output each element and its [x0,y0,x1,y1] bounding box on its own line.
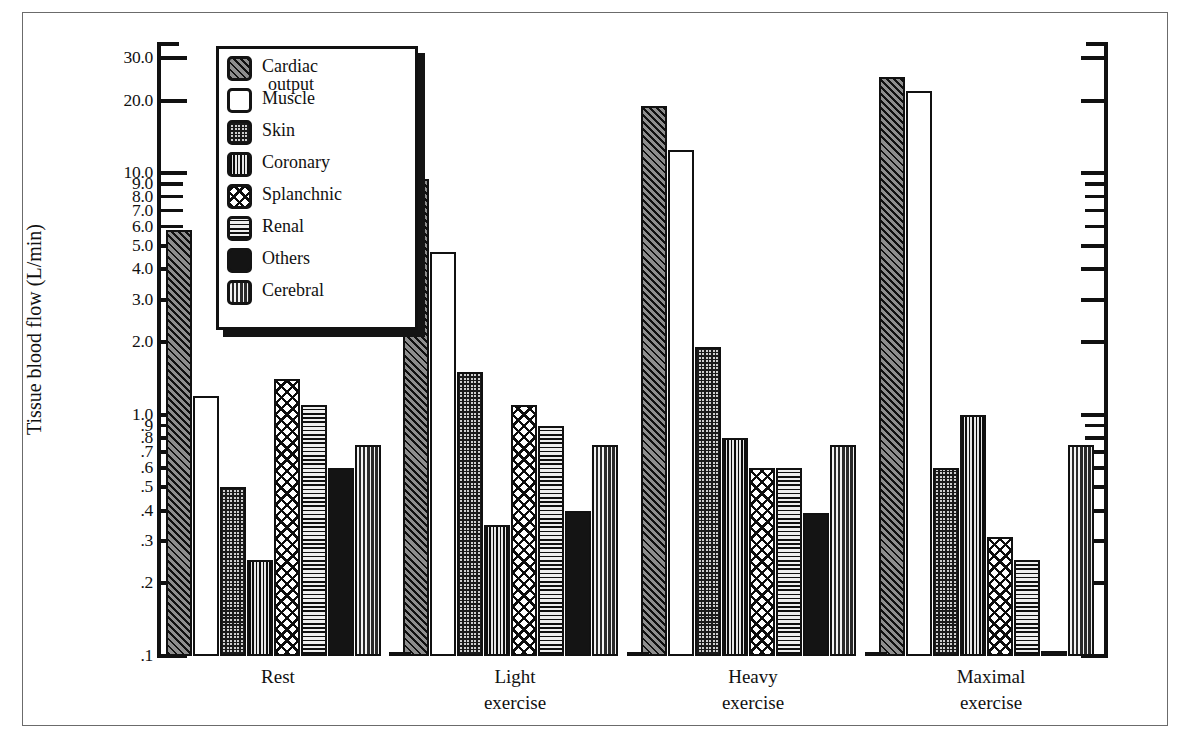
bar-light-exercise-others[interactable] [565,511,591,656]
legend-swatch-renal [227,216,252,241]
bar-heavy-exercise-others[interactable] [803,513,829,656]
y-tick-label: 20.0 [30,90,153,111]
bar-maximal-exercise-renal[interactable] [1014,560,1040,656]
bar-heavy-exercise-coronary[interactable] [722,438,748,656]
y-tick-label: 6.0 [30,216,153,237]
x-label-line: exercise [871,690,1111,716]
bar-heavy-exercise-cardiac-output[interactable] [641,106,667,656]
x-axis-label-heavy-exercise: Heavyexercise [633,664,873,715]
bar-heavy-exercise-cerebral[interactable] [830,445,856,656]
bar-heavy-exercise-muscle[interactable] [668,150,694,656]
bar-rest-splanchnic[interactable] [274,379,300,656]
x-label-line: Rest [158,664,398,690]
bar-maximal-exercise-splanchnic[interactable] [987,537,1013,656]
bar-rest-cerebral[interactable] [355,445,381,656]
legend-item-cardiac[interactable]: Cardiacoutput [227,55,409,87]
legend-swatch-coronary [227,152,252,177]
legend-swatch-skin [227,120,252,145]
bar-light-exercise-cerebral[interactable] [592,445,618,656]
bar-maximal-exercise-cerebral[interactable] [1068,445,1094,656]
legend-label: Splanchnic [262,183,342,203]
legend-swatch-others [227,248,252,273]
x-axis-label-rest: Rest [158,664,398,690]
baseline-dash-3 [865,652,887,656]
legend-label: Coronary [262,151,330,171]
x-label-line: Light [395,664,635,690]
legend-item-skin[interactable]: Skin [227,119,409,151]
x-label-line: exercise [395,690,635,716]
legend-label: Others [262,247,310,267]
bar-rest-others[interactable] [328,468,354,656]
legend-item-splanchnic[interactable]: Splanchnic [227,183,409,215]
y-tick-label: .4 [30,500,153,521]
x-axis-label-light-exercise: Lightexercise [395,664,635,715]
y-tick-label: 2.0 [30,331,153,352]
legend-items: CardiacoutputMuscleSkinCoronarySplanchni… [219,49,415,327]
baseline-dash-1 [389,652,411,656]
y-tick-label: .2 [30,572,153,593]
bar-heavy-exercise-renal[interactable] [776,468,802,656]
legend-swatch-muscle [227,88,252,113]
bar-maximal-exercise-cardiac-output[interactable] [879,77,905,656]
bar-maximal-exercise-skin[interactable] [933,468,959,656]
bar-light-exercise-splanchnic[interactable] [511,405,537,656]
y-tick-label: 3.0 [30,289,153,310]
bar-group-heavy-exercise: Heavyexercise [641,42,865,656]
bar-light-exercise-skin[interactable] [457,372,483,656]
y-tick-label: 30.0 [30,47,153,68]
figure-page: Tissue blood flow (L/min) 30.020.010.09.… [0,0,1191,751]
bars-container [641,42,856,656]
y-tick-label: .1 [30,645,153,666]
bar-heavy-exercise-splanchnic[interactable] [749,468,775,656]
bar-rest-muscle[interactable] [193,396,219,656]
x-label-line: Heavy [633,664,873,690]
bar-rest-coronary[interactable] [247,560,273,656]
legend-label: Cerebral [262,279,324,299]
bar-rest-skin[interactable] [220,487,246,656]
legend-item-others[interactable]: Others [227,247,409,279]
bar-maximal-exercise-muscle[interactable] [906,91,932,656]
bar-group-maximal-exercise: Maximalexercise [879,42,1103,656]
bar-group-light-exercise: Lightexercise [403,42,627,656]
bar-rest-cardiac-output[interactable] [166,230,192,656]
legend-item-muscle[interactable]: Muscle [227,87,409,119]
bars-container [403,42,618,656]
bars-container [879,42,1094,656]
legend-item-cerebral[interactable]: Cerebral [227,279,409,311]
bar-maximal-exercise-others[interactable] [1041,651,1067,656]
bar-rest-renal[interactable] [301,405,327,656]
x-axis-label-maximal-exercise: Maximalexercise [871,664,1111,715]
y-tick-label: .5 [30,476,153,497]
y-axis-tick-labels: 30.020.010.09.08.07.06.05.04.03.02.01.0.… [30,0,153,700]
legend-item-renal[interactable]: Renal [227,215,409,247]
y-tick-label: 5.0 [30,235,153,256]
y-tick-label: 4.0 [30,258,153,279]
bar-heavy-exercise-skin[interactable] [695,347,721,656]
y-tick-label: .3 [30,530,153,551]
legend-label: Skin [262,119,295,139]
legend-swatch-cardiac [227,56,252,81]
legend-label: Renal [262,215,304,235]
y-tick-label: .6 [30,457,153,478]
bar-light-exercise-coronary[interactable] [484,525,510,656]
legend-label: Muscle [262,87,315,107]
legend-swatch-cerebral [227,280,252,305]
legend-item-coronary[interactable]: Coronary [227,151,409,183]
bar-maximal-exercise-coronary[interactable] [960,415,986,656]
x-label-line: exercise [633,690,873,716]
bar-light-exercise-muscle[interactable] [430,252,456,656]
baseline-dash-2 [627,652,649,656]
legend-box: CardiacoutputMuscleSkinCoronarySplanchni… [216,46,418,330]
bar-light-exercise-renal[interactable] [538,426,564,656]
legend-swatch-splanchnic [227,184,252,209]
x-label-line: Maximal [871,664,1111,690]
